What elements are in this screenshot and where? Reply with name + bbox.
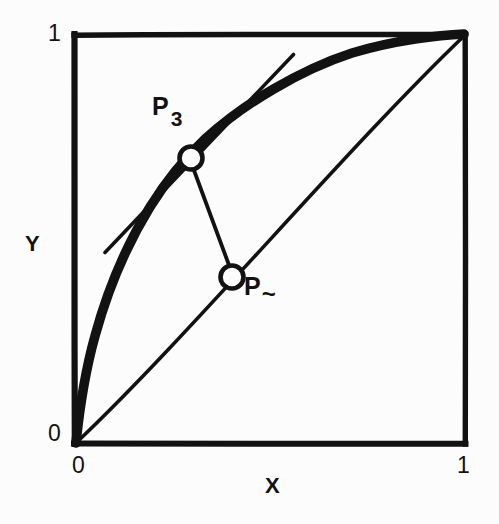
point-label-p3: P3 (152, 92, 180, 121)
x-axis-tick-right: 1 (457, 452, 470, 479)
point-label-p3-base: P (152, 92, 169, 120)
marker-p3[interactable] (180, 147, 203, 170)
y-axis-tick-bottom: 0 (48, 420, 61, 447)
y-axis-spine (74, 34, 75, 444)
top-border (74, 34, 466, 35)
y-axis-tick-top: 1 (48, 20, 61, 47)
figure-canvas: 1 0 0 1 Y X P3 P~ (0, 0, 499, 524)
x-axis-tick-left: 0 (72, 452, 85, 479)
point-label-p-tilde-subscript: ~ (262, 280, 276, 307)
x-axis-label: X (265, 473, 280, 499)
diagram-graphic (0, 0, 499, 524)
point-label-p3-subscript: 3 (171, 107, 183, 130)
y-axis-label: Y (25, 231, 40, 257)
point-label-p-tilde-base: P (244, 272, 261, 300)
point-label-p-tilde: P~ (244, 272, 275, 301)
chord-p3-ptilde (194, 169, 230, 267)
marker-p-tilde[interactable] (221, 266, 244, 289)
